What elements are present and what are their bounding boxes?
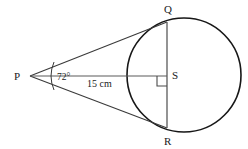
label-point-s: S xyxy=(172,69,178,81)
geometry-diagram: P Q R S 72° 15 cm xyxy=(0,0,248,149)
geometry-canvas: P Q R S 72° 15 cm xyxy=(0,0,248,149)
label-angle-measure: 72° xyxy=(57,72,71,82)
label-point-r: R xyxy=(164,135,172,147)
tangent-line-pq xyxy=(30,22,167,76)
circle-shape xyxy=(127,18,241,132)
right-angle-marker-at-s xyxy=(157,76,167,86)
label-point-q: Q xyxy=(164,3,172,15)
label-point-p: P xyxy=(14,70,20,82)
label-distance-measure: 15 cm xyxy=(87,78,112,89)
